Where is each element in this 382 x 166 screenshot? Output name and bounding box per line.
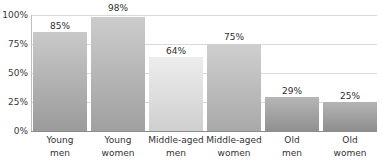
cat-label-middle-aged-men: Middle-aged men — [146, 134, 206, 160]
bar-middle-aged-men — [149, 57, 203, 131]
cat-label-line1: Young — [91, 134, 145, 147]
x-axis-category-labels: Young men Young women Middle-aged men Mi… — [31, 134, 377, 166]
cat-label-young-men: Young men — [33, 134, 87, 160]
cat-label-line2: men — [33, 147, 87, 160]
bar-fill — [323, 102, 377, 131]
bar-fill — [91, 17, 145, 131]
cat-label-line1: Young — [33, 134, 87, 147]
bar-young-men — [33, 32, 87, 131]
y-tick-label-100: 100% — [0, 11, 28, 20]
cat-label-young-women: Young women — [91, 134, 145, 160]
bar-fill — [265, 97, 319, 131]
y-tick-label-75: 75% — [0, 40, 28, 49]
cat-label-middle-aged-women: Middle-aged women — [204, 134, 264, 160]
y-tick-label-25: 25% — [0, 98, 28, 107]
bar-fill — [207, 44, 261, 131]
y-tick-label-0: 0% — [0, 127, 28, 136]
cat-label-line1: Middle-aged — [146, 134, 206, 147]
cat-label-line1: Middle-aged — [204, 134, 264, 147]
cat-label-line2: women — [91, 147, 145, 160]
cat-label-old-women: Old women — [323, 134, 377, 160]
bar-middle-aged-women — [207, 44, 261, 131]
cat-label-line1: Old — [265, 134, 319, 147]
cat-label-line2: men — [265, 147, 319, 160]
bar-fill — [33, 32, 87, 131]
cat-label-old-men: Old men — [265, 134, 319, 160]
bar-series — [31, 15, 377, 131]
bar-value-middle-aged-women: 75% — [207, 32, 261, 42]
bar-value-young-men: 85% — [33, 21, 87, 31]
bar-old-men — [265, 97, 319, 131]
cat-label-line2: women — [204, 147, 264, 160]
bar-value-middle-aged-men: 64% — [149, 46, 203, 56]
y-tick-label-50: 50% — [0, 69, 28, 78]
y-axis: 100% 75% 50% 25% 0% — [0, 0, 28, 166]
bar-value-young-women: 98% — [91, 3, 145, 13]
cat-label-line2: women — [323, 147, 377, 160]
bar-young-women — [91, 17, 145, 131]
cat-label-line2: men — [146, 147, 206, 160]
bar-value-old-men: 29% — [265, 86, 319, 96]
bar-value-old-women: 25% — [323, 91, 377, 101]
x-axis-line — [31, 131, 377, 132]
cat-label-line1: Old — [323, 134, 377, 147]
bar-fill — [149, 57, 203, 131]
bar-old-women — [323, 102, 377, 131]
bar-chart: 100% 75% 50% 25% 0% — [0, 0, 382, 166]
plot-area — [31, 15, 377, 131]
